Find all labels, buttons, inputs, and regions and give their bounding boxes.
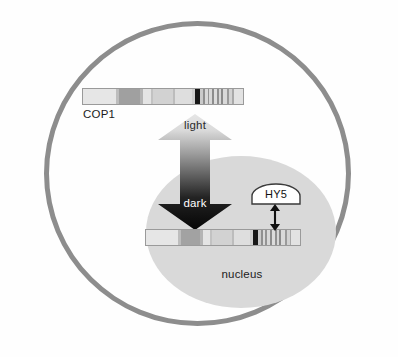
bar-segment-0 [146,230,178,245]
bar-segment-6 [212,230,232,245]
hy5-dna-binding-arrow [268,204,282,231]
cop1-label: COP1 [83,108,115,120]
bar-segment-25 [291,230,299,245]
bar-segment-0 [83,89,116,104]
bar-segment-2 [181,230,201,245]
light-dark-double-arrow [158,114,232,230]
diagram-canvas: COP1 light dark HY5 [0,0,398,357]
bar-segment-4 [143,89,151,104]
hy5-label: HY5 [251,188,301,200]
bar-segment-25 [234,89,243,104]
bar-segment-8 [234,230,250,245]
nuclear-dna-bar [145,229,301,246]
bar-segment-2 [119,89,139,104]
bar-segment-6 [153,89,173,104]
light-label: light [158,119,232,131]
nucleus-label: nucleus [207,268,277,280]
dark-label: dark [158,197,232,209]
bar-segment-4 [203,230,210,245]
cop1-protein-bar [82,88,244,105]
bar-segment-8 [175,89,192,104]
